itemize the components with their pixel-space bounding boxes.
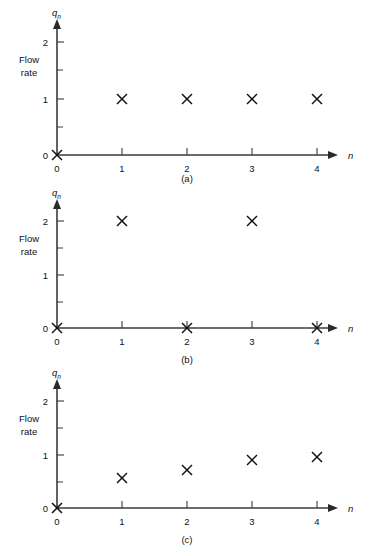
x-axis-arrowhead bbox=[328, 151, 338, 159]
chart-svg-c: 2 1 0 0 1 2 3 4 qn n Flow rate bbox=[0, 370, 374, 556]
x-ticklabel-4: 4 bbox=[314, 336, 319, 347]
y-axis-title: qn bbox=[52, 7, 61, 20]
chart-panel-a: 2 1 0 0 1 2 3 4 qn n Flow rate bbox=[0, 0, 374, 186]
y-ticklabel-1: 1 bbox=[43, 94, 48, 105]
y-axis-arrowhead bbox=[53, 199, 61, 209]
chart-svg-a: 2 1 0 0 1 2 3 4 qn n Flow rate bbox=[0, 0, 374, 186]
y-axis-arrowhead bbox=[53, 19, 61, 29]
y-ticklabel-1: 1 bbox=[43, 450, 48, 461]
data-marker-a-1 bbox=[117, 94, 127, 104]
x-ticklabel-0: 0 bbox=[54, 336, 59, 347]
x-ticklabel-3: 3 bbox=[249, 516, 254, 527]
x-ticklabel-2: 2 bbox=[184, 336, 189, 347]
flow-rate-label-line2: rate bbox=[21, 67, 37, 78]
y-ticklabel-2: 2 bbox=[43, 396, 48, 407]
y-ticklabel-1: 1 bbox=[43, 270, 48, 281]
flow-rate-label-line1: Flow bbox=[19, 233, 39, 244]
x-axis-title: n bbox=[348, 150, 353, 161]
data-marker-a-3 bbox=[247, 94, 257, 104]
y-ticklabel-0: 0 bbox=[43, 503, 48, 514]
data-marker-b-3 bbox=[247, 216, 257, 226]
chart-panel-c: 2 1 0 0 1 2 3 4 qn n Flow rate bbox=[0, 370, 374, 556]
panel-caption-c: (c) bbox=[181, 534, 192, 545]
x-axis-arrowhead bbox=[328, 324, 338, 332]
figure-container: 2 1 0 0 1 2 3 4 qn n Flow rate bbox=[0, 0, 374, 556]
y-ticklabel-2: 2 bbox=[43, 37, 48, 48]
y-axis-arrowhead bbox=[53, 379, 61, 389]
data-marker-c-1 bbox=[117, 473, 127, 483]
data-marker-c-3 bbox=[247, 455, 257, 465]
x-ticklabel-2: 2 bbox=[184, 516, 189, 527]
y-ticklabel-0: 0 bbox=[43, 323, 48, 334]
x-axis-arrowhead bbox=[328, 504, 338, 512]
x-axis-title: n bbox=[348, 323, 353, 334]
x-ticklabel-3: 3 bbox=[249, 163, 254, 174]
chart-panel-b: 2 1 0 0 1 2 3 4 qn n Flow rate bbox=[0, 185, 374, 371]
flow-rate-label-line1: Flow bbox=[19, 54, 39, 65]
flow-rate-label-line2: rate bbox=[21, 246, 37, 257]
y-axis-title: qn bbox=[52, 187, 61, 200]
x-ticklabel-0: 0 bbox=[54, 163, 59, 174]
data-marker-a-2 bbox=[182, 94, 192, 104]
x-axis-title: n bbox=[348, 503, 353, 514]
x-ticklabel-4: 4 bbox=[314, 516, 319, 527]
data-marker-c-2 bbox=[182, 465, 192, 475]
y-axis-subscript: n bbox=[57, 373, 61, 380]
flow-rate-label-line1: Flow bbox=[19, 413, 39, 424]
data-marker-b-1 bbox=[117, 216, 127, 226]
data-marker-a-4 bbox=[312, 94, 322, 104]
x-ticklabel-1: 1 bbox=[119, 163, 124, 174]
y-axis-subscript: n bbox=[57, 193, 61, 200]
x-ticklabel-0: 0 bbox=[54, 516, 59, 527]
y-axis-title: qn bbox=[52, 370, 61, 380]
y-axis-subscript: n bbox=[57, 13, 61, 20]
x-ticklabel-1: 1 bbox=[119, 516, 124, 527]
flow-rate-label-line2: rate bbox=[21, 426, 37, 437]
x-ticklabel-3: 3 bbox=[249, 336, 254, 347]
x-ticklabel-4: 4 bbox=[314, 163, 319, 174]
x-ticklabel-1: 1 bbox=[119, 336, 124, 347]
panel-caption-b: (b) bbox=[181, 354, 193, 365]
y-ticklabel-0: 0 bbox=[43, 150, 48, 161]
panel-caption-a: (a) bbox=[181, 173, 193, 184]
chart-svg-b: 2 1 0 0 1 2 3 4 qn n Flow rate bbox=[0, 185, 374, 371]
y-ticklabel-2: 2 bbox=[43, 216, 48, 227]
data-marker-c-4 bbox=[312, 452, 322, 462]
